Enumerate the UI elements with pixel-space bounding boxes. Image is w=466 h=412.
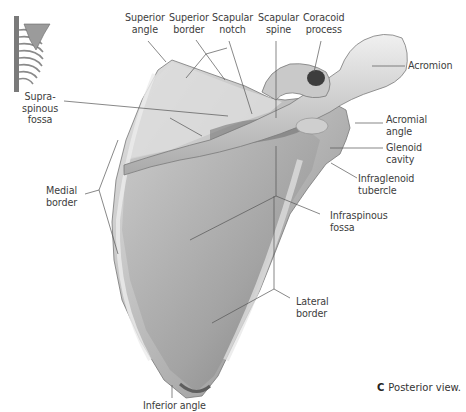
label-glenoid-cavity: Glenoid cavity	[386, 142, 422, 165]
label-scapular-notch: Scapular notch	[212, 12, 253, 35]
label-lateral-border: Lateral border	[296, 296, 329, 319]
label-superior-angle: Superior angle	[125, 12, 165, 35]
thorax-skeleton-orientation-icon	[14, 16, 50, 92]
label-supraspinous-fossa: Supra- spinous fossa	[22, 91, 58, 126]
label-medial-border: Medial border	[46, 185, 77, 208]
figure-caption: CPosterior view.	[377, 382, 461, 393]
panel-letter: C	[377, 382, 384, 393]
caption-text: Posterior view.	[388, 382, 461, 393]
coracoid-process-shape	[262, 64, 330, 100]
label-infraspinous-fossa: Infraspinous fossa	[330, 210, 388, 233]
label-acromion: Acromion	[408, 60, 452, 72]
label-inferior-angle: Inferior angle	[143, 400, 206, 412]
label-scapular-spine: Scapular spine	[258, 12, 299, 35]
label-infraglenoid-tubercle: Infraglenoid tubercle	[358, 173, 414, 196]
label-coracoid-process: Coracoid process	[303, 12, 345, 35]
label-superior-border: Superior border	[169, 12, 209, 35]
label-acromial-angle: Acromial angle	[386, 114, 427, 137]
